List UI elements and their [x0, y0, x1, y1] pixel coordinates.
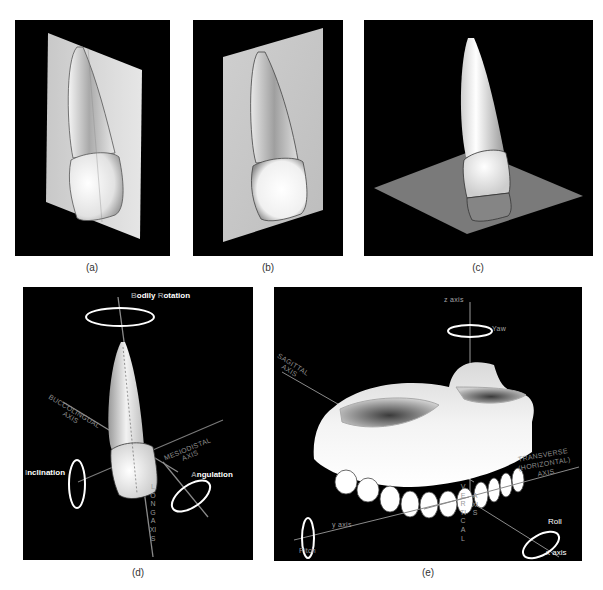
z-axis-label: z axis — [444, 296, 464, 303]
panel-e: z axis Yaw SAGITTAL AXIS TRANSVERSE (HOR… — [274, 287, 582, 561]
bodily-rotation-label: Bodily Rotation — [131, 291, 190, 300]
y-axis-label: y axis — [332, 521, 352, 528]
panel-d: Bodily Rotation Inclination Angulation B… — [23, 287, 253, 560]
long-axis-label: LONG AXIS — [149, 483, 157, 543]
caption-b: (b) — [248, 262, 288, 273]
tooth-frontal-plane-illustration — [193, 20, 343, 256]
tooth-sagittal-plane-illustration — [15, 20, 170, 256]
panel-b — [193, 20, 343, 256]
roll-label: Roll — [548, 517, 562, 526]
panel-a — [15, 20, 170, 256]
caption-d: (d) — [118, 567, 158, 578]
caption-e: (e) — [408, 567, 448, 578]
caption-c: (c) — [458, 262, 498, 273]
x-axis-label: x axis — [546, 548, 566, 557]
inclination-arrow-icon — [69, 460, 85, 508]
yaw-label: Yaw — [492, 325, 506, 332]
caption-a: (a) — [72, 262, 112, 273]
inclination-label: Inclination — [25, 468, 65, 477]
vertical-label: VERTICAL — [459, 483, 467, 543]
panel-c — [364, 20, 593, 256]
tooth-rotation-axes-diagram — [23, 287, 253, 560]
angulation-label: Angulation — [191, 470, 233, 479]
maxillary-arch-axes-diagram — [274, 287, 582, 561]
tooth-horizontal-plane-illustration — [364, 20, 593, 256]
vertical-axis-word-label: AXIS — [471, 492, 479, 518]
pitch-label: Pitch — [299, 547, 316, 554]
